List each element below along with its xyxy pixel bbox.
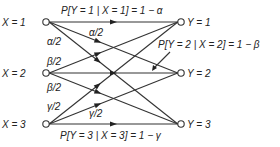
output-label-y2: Y = 2: [187, 68, 211, 79]
arrowhead-x2-y1: [94, 52, 101, 57]
edge-label-x3-y2: γ/2: [89, 108, 103, 119]
arrowhead-x3-y3: [110, 121, 117, 126]
label-pointer-line: [154, 52, 170, 68]
edge-label-x3-y1: γ/2: [47, 101, 61, 112]
arrowhead-x1-y2: [94, 38, 101, 43]
edge-label-x2-y1: β/2: [46, 56, 61, 67]
channel-diagram: X = 1 X = 2 X = 3 Y = 1 Y = 2 Y = 3 P[Y …: [0, 0, 280, 147]
input-node-x3: [43, 121, 49, 127]
output-node-y2: [178, 70, 184, 76]
edge-label-x2-y3: β/2: [46, 82, 61, 93]
edge-label-p11: P[Y = 1 | X = 1] = 1 − α: [61, 5, 163, 16]
arrowhead-x1-y1: [110, 19, 117, 24]
input-label-x1: X = 1: [1, 17, 26, 28]
output-label-y1: Y = 1: [187, 17, 210, 28]
edge-label-x1-y3: α/2: [47, 36, 61, 47]
input-label-x3: X = 3: [1, 119, 26, 130]
input-label-x2: X = 2: [1, 68, 26, 79]
edge-label-p33: P[Y = 3 | X = 3] = 1 − γ: [60, 130, 162, 141]
edge-label-p22: P[Y = 2 | X = 2] = 1 − β: [158, 39, 260, 50]
edge-label-x1-y2: α/2: [89, 27, 103, 38]
output-node-y1: [178, 19, 184, 25]
output-node-y3: [178, 121, 184, 127]
arrowhead-x2-y3: [94, 89, 101, 94]
input-node-x2: [43, 70, 49, 76]
input-node-x1: [43, 19, 49, 25]
output-label-y3: Y = 3: [187, 119, 211, 130]
